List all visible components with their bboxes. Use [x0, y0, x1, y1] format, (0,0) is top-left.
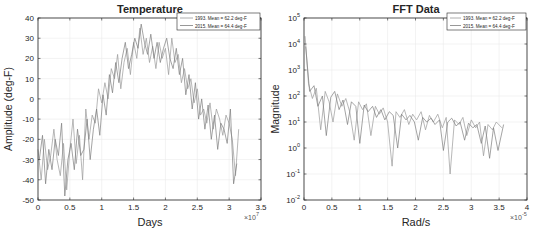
svg-text:-50: -50 — [22, 196, 34, 205]
svg-text:0.5: 0.5 — [326, 203, 338, 212]
fft-ylabel: Magnitude — [270, 84, 281, 133]
svg-text:1: 1 — [99, 203, 104, 212]
temperature-legend[interactable]: 1993. Mean = 62.2 deg-F 2015. Mean = 64.… — [177, 13, 260, 30]
svg-text:104: 104 — [288, 38, 300, 49]
svg-text:0: 0 — [36, 203, 41, 212]
svg-text:2.5: 2.5 — [438, 203, 450, 212]
svg-text:2: 2 — [163, 203, 168, 212]
fft-x-exponent: ×10-5 — [510, 211, 527, 221]
svg-text:-20: -20 — [22, 135, 34, 144]
fft-chart: 00.511.522.533.5410510410310210110010-11… — [270, 0, 538, 239]
svg-text:0: 0 — [302, 203, 307, 212]
svg-text:100: 100 — [288, 142, 300, 153]
svg-text:20: 20 — [25, 54, 34, 63]
svg-text:102: 102 — [288, 90, 300, 101]
fft-legend[interactable]: 1993. Mean = 62.2 deg-F 2015. Mean = 64.… — [447, 13, 526, 30]
svg-text:103: 103 — [288, 64, 300, 75]
fft-chart-panel: 00.511.522.533.5410510410310210110010-11… — [270, 0, 538, 239]
svg-text:-10: -10 — [22, 115, 34, 124]
temperature-chart: 00.511.522.533.5403020100-10-20-30-40-50… — [0, 0, 270, 239]
svg-text:3: 3 — [469, 203, 474, 212]
svg-text:3.5: 3.5 — [494, 203, 506, 212]
legend-label-1993: 1993. Mean = 62.2 deg-F — [463, 16, 515, 21]
temperature-xlabel: Days — [137, 216, 163, 228]
svg-text:10-1: 10-1 — [286, 168, 300, 179]
svg-text:10: 10 — [25, 75, 34, 84]
svg-text:2.5: 2.5 — [192, 203, 204, 212]
temperature-ylabel: Amplitude (deg-F) — [2, 67, 14, 151]
svg-text:-40: -40 — [22, 176, 34, 185]
legend-label-1993: 1993. Mean = 62.2 deg-F — [195, 16, 247, 21]
fft-series — [305, 36, 504, 174]
temperature-series — [38, 24, 239, 196]
temperature-title: Temperature — [117, 3, 183, 15]
svg-text:10-2: 10-2 — [286, 194, 300, 205]
temperature-grid — [38, 18, 261, 200]
svg-text:2: 2 — [413, 203, 418, 212]
svg-text:1.5: 1.5 — [128, 203, 140, 212]
svg-text:1: 1 — [358, 203, 363, 212]
svg-text:101: 101 — [288, 116, 300, 127]
svg-text:0: 0 — [30, 95, 35, 104]
fft-xlabel: Rad/s — [402, 216, 431, 228]
temperature-axes-box — [38, 18, 261, 200]
svg-text:-30: -30 — [22, 156, 34, 165]
svg-text:3: 3 — [227, 203, 232, 212]
fft-title: FFT Data — [392, 3, 440, 15]
temperature-x-exponent: ×107 — [244, 211, 259, 221]
fft-grid — [304, 18, 527, 200]
temperature-chart-panel: 00.511.522.533.5403020100-10-20-30-40-50… — [0, 0, 270, 239]
legend-label-2015: 2015. Mean = 64.4 deg-F — [463, 24, 515, 29]
legend-label-2015: 2015. Mean = 64.4 deg-F — [195, 24, 247, 29]
svg-text:1.5: 1.5 — [382, 203, 394, 212]
svg-text:0.5: 0.5 — [64, 203, 76, 212]
svg-text:105: 105 — [288, 12, 300, 23]
svg-text:40: 40 — [25, 14, 34, 23]
svg-text:30: 30 — [25, 34, 34, 43]
